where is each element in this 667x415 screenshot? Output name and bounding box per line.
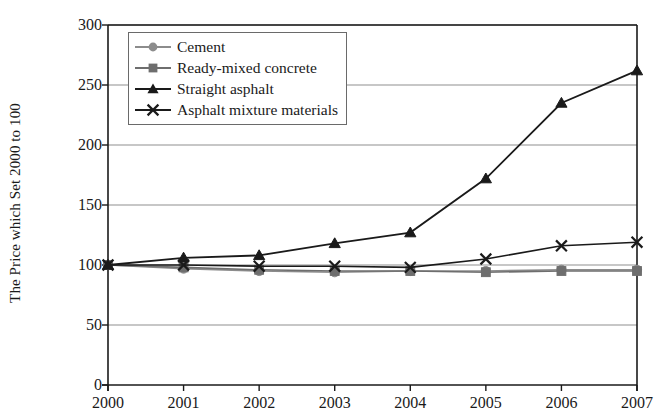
legend-item-cement[interactable]: Cement [134,36,338,57]
legend-label: Asphalt mixture materials [177,101,338,118]
data-point-square [481,268,490,277]
legend-label: Straight asphalt [177,80,274,97]
data-point-triangle [405,227,416,237]
legend-marker-cross-icon [134,102,172,118]
chart-figure: The Price which Set 2000 to 100 05010015… [0,0,667,415]
legend-marker-circle-icon [134,39,172,55]
data-point-square [633,267,642,276]
legend-item-ready-mixed-concrete[interactable]: Ready-mixed concrete [134,57,338,78]
data-point-triangle [631,65,642,75]
chart-legend: CementReady-mixed concreteStraight aspha… [128,32,347,125]
legend-marker-square-icon [134,60,172,76]
data-point-triangle [556,97,567,107]
legend-item-asphalt-mixture-materials[interactable]: Asphalt mixture materials [134,99,338,120]
legend-label: Ready-mixed concrete [177,59,317,76]
data-point-square [557,267,566,276]
legend-item-straight-asphalt[interactable]: Straight asphalt [134,78,338,99]
legend-marker-triangle-icon [134,81,172,97]
legend-label: Cement [177,38,225,55]
